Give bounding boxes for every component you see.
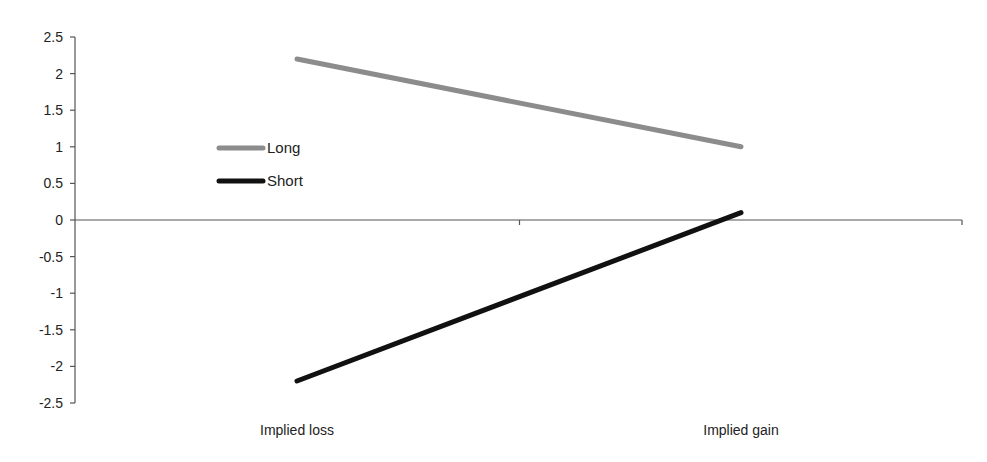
y-axis-tick-label: -0.5 bbox=[39, 249, 63, 265]
y-axis-tick-label: 2 bbox=[55, 66, 63, 82]
y-axis-tick-label: 0.5 bbox=[44, 175, 64, 191]
y-axis-tick-label: -2 bbox=[51, 358, 64, 374]
y-axis-tick-label: 1 bbox=[55, 139, 63, 155]
x-axis-category-labels: Implied lossImplied gain bbox=[260, 422, 779, 438]
y-axis-tick-label: -2.5 bbox=[39, 395, 63, 411]
legend: LongShort bbox=[219, 139, 304, 189]
y-axis-tick-label: 2.5 bbox=[44, 29, 64, 45]
legend-label-long: Long bbox=[267, 139, 300, 156]
x-axis-category-label: Implied gain bbox=[703, 422, 779, 438]
series-line-short bbox=[297, 213, 741, 381]
y-axis-tick-label: -1.5 bbox=[39, 322, 63, 338]
series-line-long bbox=[297, 59, 741, 147]
legend-label-short: Short bbox=[267, 172, 304, 189]
y-axis bbox=[70, 37, 75, 403]
x-axis bbox=[75, 220, 962, 225]
y-axis-tick-label: -1 bbox=[51, 285, 64, 301]
x-axis-category-label: Implied loss bbox=[260, 422, 334, 438]
y-axis-tick-label: 1.5 bbox=[44, 102, 64, 118]
y-axis-tick-labels: 2.521.510.50-0.5-1-1.5-2-2.5 bbox=[39, 29, 63, 411]
y-axis-tick-label: 0 bbox=[55, 212, 63, 228]
line-chart: 2.521.510.50-0.5-1-1.5-2-2.5 Implied los… bbox=[0, 0, 987, 462]
